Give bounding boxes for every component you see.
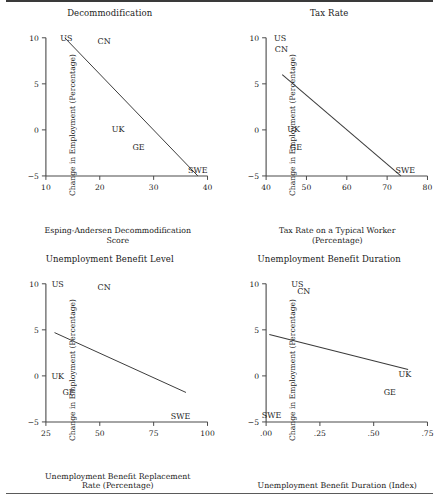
plot-area: −50510.00.25.50.75USCNUKGESWE [220, 248, 439, 494]
y-tick-label: 5 [34, 80, 39, 89]
y-tick-label: −5 [247, 172, 258, 181]
trend-line [65, 38, 198, 176]
data-point-label[interactable]: US [274, 34, 286, 43]
y-tick-label: 10 [29, 34, 39, 43]
y-tick-label: −5 [247, 417, 258, 426]
plot-area: −5051010203040USCNUKGESWE [0, 2, 220, 248]
y-tick-label: −5 [28, 172, 39, 181]
x-tick-label: 80 [422, 183, 432, 192]
x-tick-label: 30 [149, 183, 159, 192]
data-point-label[interactable]: US [60, 34, 72, 43]
y-tick-label: −5 [28, 417, 39, 426]
y-tick-label: 5 [254, 325, 259, 334]
y-tick-label: 5 [254, 80, 259, 89]
data-point-label[interactable]: GE [132, 143, 144, 152]
x-axis-label-line: (Percentage) [238, 236, 438, 246]
y-tick-label: 0 [254, 371, 259, 380]
y-tick-label: 10 [249, 34, 259, 43]
data-point-label[interactable]: CN [98, 37, 111, 46]
y-tick-label: 0 [254, 126, 259, 135]
x-tick-label: .00 [260, 428, 272, 437]
y-tick-label: 0 [34, 371, 39, 380]
data-point-label[interactable]: US [52, 279, 64, 288]
data-point-label[interactable]: UK [287, 125, 301, 134]
x-tick-label: 10 [41, 183, 51, 192]
panel-unemployment-benefit-duration: Unemployment Benefit Duration Change in … [220, 248, 439, 494]
trend-line [269, 334, 408, 369]
x-tick-label: 25 [41, 428, 51, 437]
x-tick-label: 40 [261, 183, 271, 192]
x-axis-label-line: Tax Rate on a Typical Worker [238, 226, 438, 236]
x-tick-label: 75 [149, 428, 159, 437]
x-axis-label: Tax Rate on a Typical Worker(Percentage) [238, 226, 438, 245]
panel-grid: Decommodification Change in Employment (… [0, 2, 439, 493]
x-tick-label: 50 [95, 428, 105, 437]
figure-container: Decommodification Change in Employment (… [0, 0, 439, 494]
y-tick-label: 10 [249, 279, 259, 288]
data-point-label[interactable]: CN [297, 287, 310, 296]
x-axis-label: Esping-Andersen DecommodificationScore [18, 226, 218, 245]
x-tick-label: .25 [313, 428, 325, 437]
x-tick-label: .50 [367, 428, 379, 437]
data-point-label[interactable]: UK [51, 371, 65, 380]
y-tick-label: 10 [29, 279, 39, 288]
x-tick-label: 50 [301, 183, 311, 192]
panel-tax-rate: Tax Rate Change in Employment (Percentag… [220, 2, 439, 248]
x-axis-label-line: Esping-Andersen Decommodification [18, 226, 218, 236]
panel-decommodification: Decommodification Change in Employment (… [0, 2, 220, 248]
trend-line [55, 332, 186, 392]
x-tick-label: 70 [382, 183, 392, 192]
data-point-label[interactable]: CN [274, 45, 287, 54]
x-axis-label-line: Unemployment Benefit Duration (Index) [238, 481, 438, 491]
data-point-label[interactable]: SWE [171, 412, 191, 421]
x-tick-label: .75 [421, 428, 433, 437]
data-point-label[interactable]: GE [289, 143, 301, 152]
y-tick-label: 0 [34, 126, 39, 135]
x-axis-label-line: Unemployment Benefit Replacement [18, 472, 218, 482]
data-point-label[interactable]: SWE [188, 166, 208, 175]
x-axis-label: Unemployment Benefit ReplacementRate (Pe… [18, 472, 218, 491]
data-point-label[interactable]: UK [398, 370, 412, 379]
y-tick-label: 5 [34, 325, 39, 334]
data-point-label[interactable]: SWE [261, 411, 281, 420]
x-axis-label-line: Score [18, 236, 218, 246]
x-tick-label: 100 [200, 428, 215, 437]
data-point-label[interactable]: CN [98, 283, 111, 292]
data-point-label[interactable]: SWE [395, 166, 415, 175]
x-tick-label: 40 [203, 183, 213, 192]
x-axis-label: Unemployment Benefit Duration (Index) [238, 481, 438, 491]
x-tick-label: 60 [341, 183, 351, 192]
x-axis-label-line: Rate (Percentage) [18, 481, 218, 491]
data-point-label[interactable]: UK [112, 125, 126, 134]
data-point-label[interactable]: GE [62, 387, 74, 396]
plot-area: −505104050607080USCNUKGESWE [220, 2, 439, 248]
panel-unemployment-benefit-level: Unemployment Benefit Level Change in Emp… [0, 248, 220, 494]
plot-area: −50510255075100USCNUKGESWE [0, 248, 220, 494]
trend-line [282, 75, 401, 176]
x-tick-label: 20 [95, 183, 105, 192]
data-point-label[interactable]: GE [383, 387, 395, 396]
